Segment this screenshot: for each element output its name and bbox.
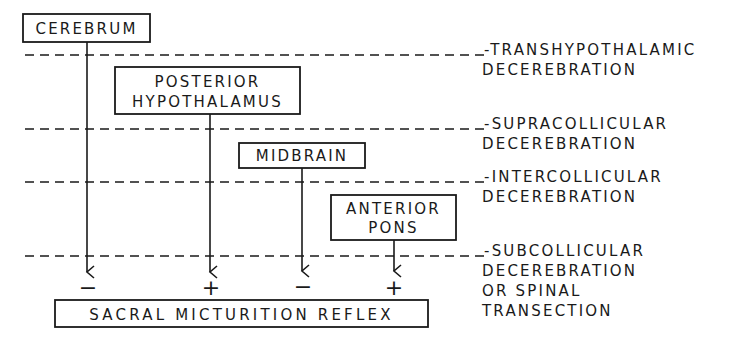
- level-supracollicular-line1: -SUPRACOLLICULAR: [484, 115, 668, 133]
- label-cerebrum: CEREBRUM: [35, 20, 137, 38]
- level-intercollicular-text: INTERCOLLICULAR: [492, 168, 663, 186]
- level-leader: -: [484, 242, 492, 260]
- level-transhypothalamic-line1: -TRANSHYPOTHALAMIC: [484, 41, 696, 59]
- sign-cerebrum-inhibitory: −: [79, 275, 97, 300]
- label-sacral-micturition-reflex: SACRAL MICTURITION REFLEX: [89, 306, 393, 324]
- box-sacral-micturition-reflex: SACRAL MICTURITION REFLEX: [55, 300, 428, 327]
- level-label-intercollicular: -INTERCOLLICULAR DECEREBRATION: [482, 168, 663, 206]
- level-label-subcollicular: -SUBCOLLICULAR DECEREBRATION OR SPINAL T…: [481, 242, 645, 320]
- level-intercollicular-line2: DECEREBRATION: [482, 188, 637, 206]
- level-subcollicular-text: SUBCOLLICULAR: [492, 242, 645, 260]
- level-intercollicular-line1: -INTERCOLLICULAR: [484, 168, 663, 186]
- level-label-transhypothalamic: -TRANSHYPOTHALAMIC DECEREBRATION: [482, 41, 696, 79]
- sign-anterior-pons-facilitatory: +: [385, 275, 403, 300]
- level-leader: -: [484, 168, 492, 186]
- level-subcollicular-line2: DECEREBRATION: [482, 262, 637, 280]
- level-supracollicular-line2: DECEREBRATION: [482, 135, 637, 153]
- level-transhypothalamic-text: TRANSHYPOTHALAMIC: [489, 41, 696, 59]
- micturition-control-diagram: CEREBRUM POSTERIOR HYPOTHALAMUS MIDBRAIN…: [0, 0, 749, 344]
- level-supracollicular-text: SUPRACOLLICULAR: [492, 115, 669, 133]
- label-anterior-pons-line2: PONS: [368, 219, 418, 237]
- level-subcollicular-line3: OR SPINAL: [482, 282, 582, 300]
- sign-posterior-hypothalamus-facilitatory: +: [202, 275, 220, 300]
- level-subcollicular-line4: TRANSECTION: [481, 302, 613, 320]
- label-posterior-hypothalamus-line2: HYPOTHALAMUS: [132, 93, 283, 111]
- sign-midbrain-inhibitory: −: [294, 274, 312, 299]
- level-subcollicular-line1: -SUBCOLLICULAR: [484, 242, 645, 260]
- level-transhypothalamic-line2: DECEREBRATION: [482, 61, 637, 79]
- box-midbrain: MIDBRAIN: [239, 143, 365, 168]
- label-anterior-pons-line1: ANTERIOR: [346, 200, 441, 218]
- label-posterior-hypothalamus-line1: POSTERIOR: [155, 73, 261, 91]
- level-leader: -: [484, 115, 492, 133]
- box-anterior-pons: ANTERIOR PONS: [331, 195, 456, 240]
- box-posterior-hypothalamus: POSTERIOR HYPOTHALAMUS: [115, 67, 300, 114]
- level-label-supracollicular: -SUPRACOLLICULAR DECEREBRATION: [482, 115, 668, 153]
- label-midbrain: MIDBRAIN: [256, 147, 349, 165]
- box-cerebrum: CEREBRUM: [23, 14, 150, 42]
